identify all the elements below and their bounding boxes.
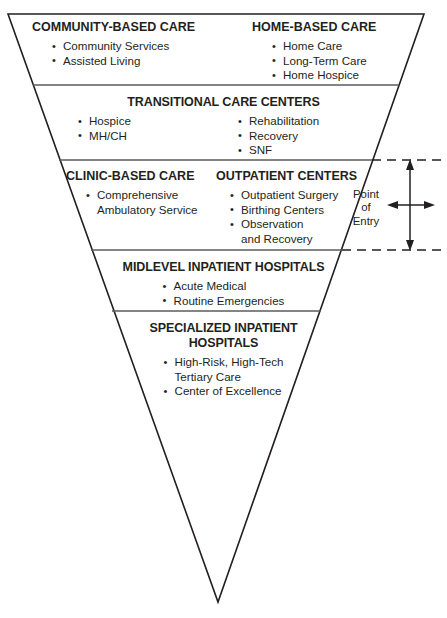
bullet-list: Home Care Long-Term Care Home Hospice <box>272 39 367 83</box>
list-item: Long-Term Care <box>272 54 367 69</box>
tier-clinic-heading-left: CLINIC-BASED CARE <box>66 169 194 183</box>
tier-transitional-column-right: Rehabilitation Recovery SNF <box>238 114 319 158</box>
bullet-list: Comprehensive Ambulatory Service <box>86 188 198 217</box>
bullet-list: Rehabilitation Recovery SNF <box>238 114 319 158</box>
point-of-entry-line-3: Entry <box>340 215 392 228</box>
diagram-text-layer: COMMUNITY-BASED CARE Community Services … <box>0 0 447 618</box>
list-item: Home Care <box>272 39 367 54</box>
tier-outpatient-heading-right: OUTPATIENT CENTERS <box>216 169 357 183</box>
tier-specialized-heading: SPECIALIZED INPATIENT HOSPITALS <box>0 321 447 350</box>
tier-community-heading-right: HOME-BASED CARE <box>252 20 376 34</box>
tier-specialized-heading-line-1: SPECIALIZED INPATIENT <box>0 321 447 336</box>
tier-community-heading-left: COMMUNITY-BASED CARE <box>32 20 195 34</box>
list-item: High-Risk, High-Tech Tertiary Care <box>164 355 284 384</box>
bullet-list: Hospice MH/CH <box>78 114 131 143</box>
list-item: Assisted Living <box>52 54 169 69</box>
point-of-entry-line-2: of <box>340 201 392 214</box>
tier-midlevel-bullets: Acute Medical Routine Emergencies <box>0 279 447 309</box>
list-item: Comprehensive Ambulatory Service <box>86 188 198 217</box>
point-of-entry-line-1: Point <box>340 188 392 201</box>
tier-transitional-heading: TRANSITIONAL CARE CENTERS <box>0 95 447 109</box>
list-item: Center of Excellence <box>164 384 284 399</box>
tier-specialized-bullets: High-Risk, High-Tech Tertiary Care Cente… <box>0 355 447 399</box>
tier-community-column-right: Home Care Long-Term Care Home Hospice <box>272 39 367 83</box>
tier-specialized-heading-line-2: HOSPITALS <box>0 336 447 351</box>
tier-community-column-left: Community Services Assisted Living <box>52 39 169 68</box>
list-item: Outpatient Surgery <box>230 188 338 203</box>
list-item: Rehabilitation <box>238 114 319 129</box>
list-item: SNF <box>238 143 319 158</box>
list-item: Observation and Recovery <box>230 217 338 246</box>
list-item: Recovery <box>238 129 319 144</box>
list-item: MH/CH <box>78 129 131 144</box>
tier-midlevel-heading: MIDLEVEL INPATIENT HOSPITALS <box>0 260 447 274</box>
tier-clinic-column-left: Comprehensive Ambulatory Service <box>86 188 198 217</box>
bullet-list: High-Risk, High-Tech Tertiary Care Cente… <box>164 355 284 399</box>
list-item: Home Hospice <box>272 68 367 83</box>
list-item: Routine Emergencies <box>163 294 285 309</box>
list-item: Acute Medical <box>163 279 285 294</box>
point-of-entry-label: Point of Entry <box>340 188 392 228</box>
list-item: Community Services <box>52 39 169 54</box>
tier-transitional-column-left: Hospice MH/CH <box>78 114 131 143</box>
tier-outpatient-column-right: Outpatient Surgery Birthing Centers Obse… <box>230 188 338 246</box>
list-item: Hospice <box>78 114 131 129</box>
care-delivery-triangle-diagram: COMMUNITY-BASED CARE Community Services … <box>0 0 447 618</box>
bullet-list: Outpatient Surgery Birthing Centers Obse… <box>230 188 338 246</box>
bullet-list: Acute Medical Routine Emergencies <box>163 279 285 308</box>
list-item: Birthing Centers <box>230 203 338 218</box>
bullet-list: Community Services Assisted Living <box>52 39 169 68</box>
